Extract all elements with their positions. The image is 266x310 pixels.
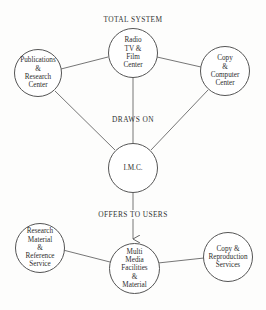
- edge-label-offers-to-users: OFFERS TO USERS: [96, 210, 169, 219]
- node-radio-tv-film-center: Radio TV & Film Center: [108, 28, 158, 78]
- node-research-material-reference-service: Research Material & Reference Service: [15, 223, 65, 273]
- edge-label-draws-on: DRAWS ON: [110, 115, 156, 124]
- edge-publications-radio: [61, 57, 108, 69]
- edge-copy-computer-imc: [151, 90, 208, 150]
- edge-radio-copy-computer: [157, 57, 201, 67]
- node-copy-computer-center: Copy & Computer Center: [200, 46, 250, 96]
- node-imc: I.M.C.: [108, 143, 158, 193]
- diagram-page: TOTAL SYSTEM DRAWS ON OFFERS TO USERS Ra…: [0, 0, 266, 310]
- edge-research-multimedia: [63, 250, 110, 262]
- node-label: Radio TV & Film Center: [123, 36, 142, 69]
- node-multi-media-facilities-material: Multi Media Facilities & Material: [109, 243, 160, 294]
- node-label: Research Material & Reference Service: [25, 227, 54, 268]
- edge-publications-imc: [55, 91, 115, 150]
- node-label: Copy & Computer Center: [211, 54, 240, 87]
- node-label: Copy & Reproduction Services: [208, 245, 247, 270]
- node-copy-reproduction-services: Copy & Reproduction Services: [203, 232, 253, 282]
- node-publications-research-center: Publications & Research Center: [14, 49, 62, 97]
- node-label: Publications & Research Center: [20, 56, 56, 89]
- node-label: I.M.C.: [124, 164, 143, 172]
- node-label: Multi Media Facilities & Material: [121, 248, 147, 289]
- diagram-title: TOTAL SYSTEM: [101, 15, 164, 24]
- edge-multimedia-copy-reproduction: [158, 258, 204, 263]
